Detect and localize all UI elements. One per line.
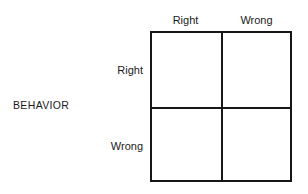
- matrix-cell-right-right[interactable]: [152, 33, 221, 107]
- column-header-wrong: Wrong: [221, 13, 292, 27]
- matrix-cell-wrong-right[interactable]: [152, 107, 221, 181]
- column-header-right: Right: [150, 13, 221, 27]
- behavior-matrix-diagram: BEHAVIOR Right Wrong Right Wrong: [0, 0, 308, 194]
- row-label-wrong: Wrong: [63, 139, 143, 153]
- row-label-right: Right: [63, 63, 143, 77]
- matrix-cell-wrong-wrong[interactable]: [221, 107, 290, 181]
- matrix-cell-right-wrong[interactable]: [221, 33, 290, 107]
- axis-label-behavior: BEHAVIOR: [13, 99, 83, 112]
- matrix-grid: [150, 31, 292, 182]
